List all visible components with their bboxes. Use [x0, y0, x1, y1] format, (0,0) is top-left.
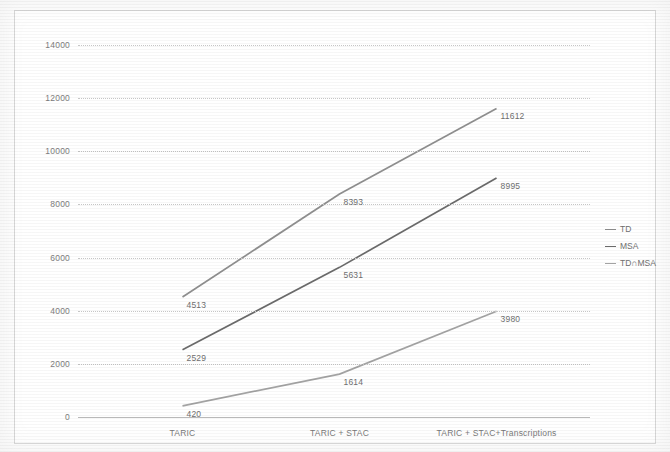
screenshot-root: 02000400060008000100001200014000TARICTAR… — [0, 0, 670, 452]
x-axis-tick-label: TARIC + STAC+Transcriptions — [437, 428, 557, 438]
legend-color-swatch — [605, 263, 616, 264]
y-axis-tick-label: 0 — [65, 412, 70, 422]
data-point-label: 8995 — [501, 181, 521, 191]
gridline — [78, 311, 590, 312]
y-axis-tick-label: 12000 — [45, 93, 70, 103]
y-axis-tick-label: 2000 — [50, 359, 70, 369]
gridline — [78, 151, 590, 152]
x-axis-tick-label: TARIC + STAC — [310, 428, 369, 438]
y-axis-tick-label: 10000 — [45, 146, 70, 156]
y-axis-tick-label: 14000 — [45, 40, 70, 50]
data-point-label: 5631 — [344, 270, 364, 280]
legend-item-label: TD — [620, 224, 631, 234]
gridline — [78, 364, 590, 365]
data-point-label: 4513 — [187, 300, 207, 310]
x-axis-tick-label: TARIC — [170, 428, 196, 438]
legend-item-label: MSA — [620, 241, 638, 251]
data-point-label: 3980 — [501, 314, 521, 324]
y-axis-tick-label: 4000 — [50, 306, 70, 316]
gridline — [78, 45, 590, 46]
gridline — [78, 258, 590, 259]
chart-legend: TDMSATD∩MSA — [605, 224, 656, 268]
data-point-label: 1614 — [344, 377, 364, 387]
gridline — [78, 204, 590, 205]
legend-color-swatch — [605, 246, 616, 247]
y-axis-tick-label: 6000 — [50, 253, 70, 263]
data-point-label: 8393 — [344, 197, 364, 207]
series-line — [183, 108, 497, 297]
gridline — [78, 98, 590, 99]
y-axis-tick-label: 8000 — [50, 199, 70, 209]
legend-item[interactable]: MSA — [605, 241, 656, 251]
chart-container: 02000400060008000100001200014000TARICTAR… — [14, 10, 656, 444]
legend-item[interactable]: TD∩MSA — [605, 258, 656, 268]
x-axis-line — [78, 417, 590, 418]
series-lines — [78, 45, 590, 417]
data-point-label: 420 — [187, 409, 202, 419]
legend-color-swatch — [605, 229, 616, 230]
legend-item[interactable]: TD — [605, 224, 656, 234]
plot-area: 02000400060008000100001200014000TARICTAR… — [78, 45, 590, 417]
data-point-label: 2529 — [187, 353, 207, 363]
legend-item-label: TD∩MSA — [620, 258, 656, 268]
data-point-label: 11612 — [501, 111, 525, 121]
